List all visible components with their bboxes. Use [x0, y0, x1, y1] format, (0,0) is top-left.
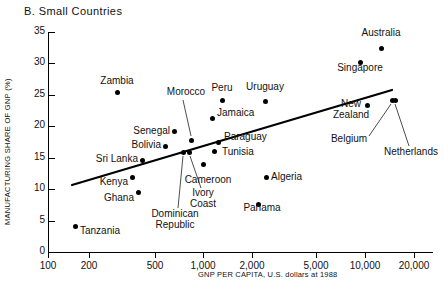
y-tick-20: 20	[49, 126, 55, 127]
point-label: Paraguay	[224, 131, 267, 142]
x-tick-1000	[203, 252, 204, 258]
point-label: Cameroon	[185, 174, 232, 185]
point-label: Jamaica	[217, 107, 254, 118]
data-point	[212, 149, 217, 154]
point-label: Singapore	[337, 62, 383, 73]
x-tick-100	[48, 252, 49, 258]
x-tick-label-1000: 1,000	[190, 260, 215, 271]
data-point	[379, 46, 384, 51]
data-point	[140, 158, 145, 163]
y-tick-label-20: 20	[23, 119, 45, 130]
y-tick-0: 0	[49, 252, 55, 253]
x-tick-200	[89, 252, 90, 258]
data-point	[393, 98, 398, 103]
point-label: Peru	[211, 82, 232, 93]
data-point	[263, 99, 268, 104]
x-tick-500	[155, 252, 156, 258]
point-label: Australia	[362, 27, 401, 38]
point-label: Zambia	[100, 75, 133, 86]
point-label: Belgium	[331, 133, 367, 144]
y-tick-label-35: 35	[23, 25, 45, 36]
point-label: Uruguay	[246, 81, 284, 92]
data-point	[210, 116, 215, 121]
point-label: Kenya	[100, 176, 128, 187]
data-point	[172, 129, 177, 134]
x-tick-2000	[252, 252, 253, 258]
chart-figure: B. Small Countries MANUFACTURING SHARE O…	[0, 0, 444, 291]
point-label: Ghana	[104, 192, 134, 203]
data-point	[130, 175, 135, 180]
x-tick-label-5000: 5,000	[303, 260, 328, 271]
point-label: Netherlands	[384, 146, 438, 157]
data-point	[163, 144, 168, 149]
x-tick-5000	[316, 252, 317, 258]
x-axis-line	[48, 252, 433, 253]
point-label: DominicanRepublic	[151, 208, 198, 230]
y-tick-15: 15	[49, 158, 55, 159]
data-point	[220, 98, 225, 103]
y-tick-label-5: 5	[23, 214, 45, 225]
data-point	[264, 175, 269, 180]
data-point	[201, 162, 206, 167]
data-point	[73, 224, 78, 229]
point-label: Tanzania	[80, 225, 120, 236]
x-tick-10000	[365, 252, 366, 258]
y-axis-title: MANUFACTURING SHARE OF GNP (%)	[3, 213, 12, 225]
x-tick-label-20000: 20,000	[399, 260, 430, 271]
y-tick-5: 5	[49, 221, 55, 222]
y-tick-label-0: 0	[23, 245, 45, 256]
y-tick-30: 30	[49, 63, 55, 64]
data-point	[216, 140, 221, 145]
point-label: Morocco	[167, 86, 205, 97]
y-tick-10: 10	[49, 189, 55, 190]
data-point	[136, 190, 141, 195]
point-label: Panama	[243, 202, 280, 213]
point-label: Tunisia	[222, 146, 254, 157]
point-label: IvoryCoast	[190, 187, 216, 209]
y-tick-25: 25	[49, 95, 55, 96]
data-point	[181, 150, 186, 155]
point-label: Senegal	[133, 125, 170, 136]
x-tick-label-200: 200	[81, 260, 98, 271]
y-tick-35: 35	[49, 32, 55, 33]
data-point	[115, 90, 120, 95]
x-tick-label-10000: 10,000	[350, 260, 381, 271]
y-tick-label-25: 25	[23, 88, 45, 99]
y-tick-label-15: 15	[23, 151, 45, 162]
y-tick-label-30: 30	[23, 56, 45, 67]
x-tick-label-2000: 2,000	[239, 260, 264, 271]
data-point	[189, 138, 194, 143]
page-title: B. Small Countries	[24, 5, 122, 17]
x-tick-label-100: 100	[40, 260, 57, 271]
point-label: Algeria	[271, 171, 302, 182]
x-tick-20000	[414, 252, 415, 258]
point-label: Bolivia	[132, 139, 161, 150]
point-label: Sri Lanka	[96, 153, 138, 164]
data-point	[187, 150, 192, 155]
x-tick-label-500: 500	[147, 260, 164, 271]
y-tick-label-10: 10	[23, 182, 45, 193]
x-axis-title: GNP PER CAPITA, U.S. dollars at 1988	[198, 270, 337, 279]
point-label: NewZealand	[333, 98, 369, 120]
